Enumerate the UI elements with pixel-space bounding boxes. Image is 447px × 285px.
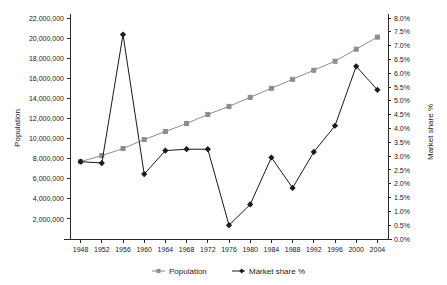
right-axis-tick-label: 7.5% xyxy=(394,28,410,35)
right-axis-tick-label: 1.5% xyxy=(394,194,410,201)
chart-container: 2,000,0004,000,0006,000,0008,000,00010,0… xyxy=(0,0,447,285)
left-axis-tick-label: 2,000,000 xyxy=(33,216,64,223)
right-axis-tick-label: 5.0% xyxy=(394,97,410,104)
data-point-marker xyxy=(354,47,358,51)
right-axis-tick-label: 5.5% xyxy=(394,84,410,91)
bottom-axis-tick-label: 1956 xyxy=(115,246,131,253)
bottom-axis-tick-label: 1960 xyxy=(136,246,152,253)
right-axis-tick-label: 8.0% xyxy=(394,15,410,22)
left-axis-tick-label: 16,000,000 xyxy=(29,75,64,82)
bottom-axis-tick-label: 1952 xyxy=(94,246,110,253)
bottom-axis-tick-label: 1988 xyxy=(285,246,301,253)
left-axis-tick-label: 10,000,000 xyxy=(29,135,64,142)
bottom-axis-tick-label: 1984 xyxy=(264,246,280,253)
left-axis-tick-label: 20,000,000 xyxy=(29,35,64,42)
bottom-axis-tick-label: 1980 xyxy=(242,246,258,253)
data-point-marker xyxy=(333,59,337,63)
right-axis-tick-label: 0.0% xyxy=(394,236,410,243)
data-point-marker xyxy=(227,104,231,108)
data-point-marker xyxy=(185,121,189,125)
right-axis-tick-label: 6.5% xyxy=(394,56,410,63)
right-axis-tick-label: 4.0% xyxy=(394,125,410,132)
data-point-marker xyxy=(142,138,146,142)
chart-canvas: 2,000,0004,000,0006,000,0008,000,00010,0… xyxy=(0,0,447,285)
right-axis-tick-label: 3.5% xyxy=(394,139,410,146)
bottom-axis-tick-label: 1964 xyxy=(158,246,174,253)
right-axis-tick-label: 2.5% xyxy=(394,167,410,174)
right-axis-tick-label: 1.0% xyxy=(394,208,410,215)
data-point-marker xyxy=(375,35,379,39)
plot-background xyxy=(0,0,447,285)
right-axis-tick-label: 3.0% xyxy=(394,153,410,160)
legend-label: Population xyxy=(169,267,207,276)
bottom-axis-tick-label: 1976 xyxy=(221,246,237,253)
left-axis-tick-label: 22,000,000 xyxy=(29,15,64,22)
legend-swatch-marker xyxy=(157,269,161,273)
data-point-marker xyxy=(163,130,167,134)
data-point-marker xyxy=(206,112,210,116)
left-axis-tick-label: 6,000,000 xyxy=(33,175,64,182)
bottom-axis-tick-label: 1948 xyxy=(73,246,89,253)
left-axis-tick-label: 4,000,000 xyxy=(33,195,64,202)
bottom-axis-tick-label: 2000 xyxy=(348,246,364,253)
right-axis-tick-label: 6.0% xyxy=(394,70,410,77)
right-axis-tick-label: 4.5% xyxy=(394,111,410,118)
data-point-marker xyxy=(291,77,295,81)
left-axis-tick-label: 14,000,000 xyxy=(29,95,64,102)
right-axis-title: Market share % xyxy=(426,104,435,160)
left-axis-tick-label: 12,000,000 xyxy=(29,115,64,122)
data-point-marker xyxy=(312,68,316,72)
left-axis-tick-label: 8,000,000 xyxy=(33,155,64,162)
right-axis-tick-label: 2.0% xyxy=(394,180,410,187)
legend-label: Market share % xyxy=(249,267,305,276)
left-axis-title: Population xyxy=(13,109,22,147)
bottom-axis-tick-label: 1968 xyxy=(179,246,195,253)
data-point-marker xyxy=(248,95,252,99)
bottom-axis-tick-label: 2004 xyxy=(370,246,386,253)
bottom-axis-tick-label: 1996 xyxy=(327,246,343,253)
data-point-marker xyxy=(269,86,273,90)
bottom-axis-tick-label: 1972 xyxy=(200,246,216,253)
right-axis-tick-label: 0.5% xyxy=(394,222,410,229)
left-axis-tick-label: 18,000,000 xyxy=(29,55,64,62)
right-axis-tick-label: 7.0% xyxy=(394,42,410,49)
data-point-marker xyxy=(121,147,125,151)
bottom-axis-tick-label: 1992 xyxy=(306,246,322,253)
